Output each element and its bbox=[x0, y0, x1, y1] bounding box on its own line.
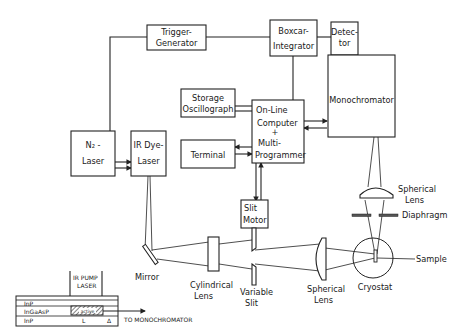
n2-laser-label-1: N₂ - bbox=[86, 140, 101, 150]
boxcar-label-2: Integrator bbox=[273, 41, 315, 51]
ir-dye-laser-label-2: Laser bbox=[137, 156, 160, 166]
computer-label-1: On-Line bbox=[256, 105, 288, 115]
slit-motor-block: Slit Motor bbox=[241, 200, 268, 228]
pump-label-1: IR PUMP bbox=[73, 274, 98, 281]
mirror-label: Mirror bbox=[135, 272, 160, 282]
storage-label-1: Storage bbox=[192, 93, 224, 103]
pump-label-2: LASER bbox=[77, 282, 96, 289]
cylindrical-lens-label-1: Cylindrical bbox=[190, 280, 233, 290]
layer-label-top: InP bbox=[24, 300, 34, 307]
output-label: TO MONOCHROMATOR bbox=[123, 316, 192, 323]
diaphragm-label: Diaphragm bbox=[402, 210, 448, 220]
layer-label-middle: InGaAsP bbox=[24, 308, 49, 315]
waveguide-inset: IR PUMP LASER active InP InGaAsP InP L Δ… bbox=[16, 271, 192, 326]
mirror: Mirror bbox=[135, 244, 160, 282]
detector-label-2: tor bbox=[339, 38, 351, 48]
monochromator-label: Monochromator bbox=[329, 95, 394, 105]
cryostat-label: Cryostat bbox=[358, 282, 393, 292]
spherical-lens-h-label-2: Lens bbox=[314, 295, 333, 305]
computer-label-3: + bbox=[272, 127, 279, 137]
storage-oscilloscope-block: Storage Oscillograph bbox=[181, 89, 235, 117]
spherical-lens-vertical: Spherical Lens bbox=[360, 184, 436, 205]
cylindrical-lens-label-2: Lens bbox=[194, 291, 213, 301]
sample bbox=[374, 250, 377, 262]
boxcar-label-1: Boxcar- bbox=[278, 26, 308, 36]
diaphragm: Diaphragm bbox=[352, 210, 448, 220]
n2-laser-block: N₂ - Laser bbox=[71, 131, 115, 176]
online-computer-block: On-Line Computer + Multi- Programmer bbox=[252, 100, 307, 163]
trigger-generator-block: Trigger- Generator bbox=[147, 25, 206, 50]
ir-dye-laser-label-1: IR Dye- bbox=[134, 140, 164, 150]
spherical-lens-v-label-2: Lens bbox=[405, 195, 424, 205]
computer-label-5: Programmer bbox=[255, 150, 307, 160]
sample-label: Sample bbox=[416, 254, 447, 264]
slit-motor-label-2: Motor bbox=[243, 215, 267, 225]
variable-slit-label-2: Slit bbox=[245, 298, 259, 308]
cryostat: Sample Cryostat bbox=[353, 238, 447, 292]
layer-label-bottom: InP bbox=[24, 317, 34, 324]
monochromator-block: Monochromator bbox=[328, 55, 395, 137]
n2-laser-label-2: Laser bbox=[82, 156, 105, 166]
spherical-lens-v-label-1: Spherical bbox=[398, 184, 436, 194]
cylindrical-lens: Cylindrical Lens bbox=[190, 237, 233, 301]
storage-label-2: Oscillograph bbox=[182, 104, 233, 114]
terminal-label: Terminal bbox=[190, 150, 226, 160]
variable-slit-label-1: Variable bbox=[240, 287, 273, 297]
boxcar-integrator-block: Boxcar- Integrator bbox=[270, 20, 317, 56]
terminal-block: Terminal bbox=[181, 140, 235, 168]
computer-label-4: Multi- bbox=[258, 138, 281, 148]
experimental-setup-diagram: Trigger- Generator Boxcar- Integrator De… bbox=[0, 0, 457, 336]
spherical-lens-horizontal: Spherical Lens bbox=[307, 238, 345, 305]
detector-label-1: Detec- bbox=[331, 27, 358, 37]
trigger-generator-label-1: Trigger- bbox=[160, 27, 192, 37]
trigger-generator-label-2: Generator bbox=[156, 38, 198, 48]
detector-block: Detec- tor bbox=[331, 22, 358, 55]
ir-dye-laser-block: IR Dye- Laser bbox=[131, 131, 166, 176]
spherical-lens-h-label-1: Spherical bbox=[307, 284, 345, 294]
active-label: active bbox=[81, 309, 95, 314]
slit-motor-label-1: Slit bbox=[244, 203, 258, 213]
